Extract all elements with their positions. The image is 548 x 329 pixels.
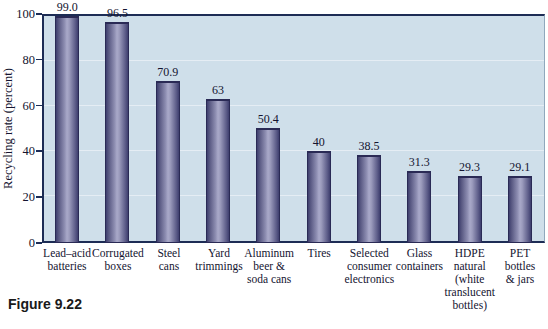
bar-1: [105, 22, 129, 243]
y-tick-mark-80: [36, 59, 42, 61]
y-tick-label-60: 60: [9, 99, 35, 113]
y-axis-title-text: Recycling rate (percent): [1, 68, 16, 189]
category-label-3: Yard trimmings: [194, 247, 244, 312]
bar-column-2: 70.9: [143, 14, 193, 243]
y-tick-label-100: 100: [9, 7, 35, 21]
y-tick-mark-100: [36, 13, 42, 15]
bar-value-label-9: 29.1: [509, 161, 530, 174]
bar-value-label-0: 99.0: [57, 1, 78, 14]
bar-3: [206, 99, 230, 243]
y-tick-label-0: 0: [9, 236, 35, 250]
bar-value-label-4: 50.4: [258, 113, 279, 126]
y-tick-mark-0: [36, 242, 42, 244]
bar-column-5: 40: [293, 14, 343, 243]
category-label-8: HDPE natural (white translucent bottles): [445, 247, 495, 312]
bar-9: [508, 176, 532, 243]
bar-value-label-2: 70.9: [157, 66, 178, 79]
y-tick-label-80: 80: [9, 53, 35, 67]
y-axis-title: Recycling rate (percent): [0, 14, 16, 243]
bar-value-label-3: 63: [212, 84, 224, 97]
y-tick-mark-40: [36, 150, 42, 152]
bar-2: [156, 81, 180, 243]
category-label-1: Corrugated boxes: [92, 247, 144, 312]
category-label-7: Glass containers: [394, 247, 444, 312]
bar-value-label-5: 40: [313, 136, 325, 149]
y-tick-label-20: 20: [9, 190, 35, 204]
bar-5: [307, 151, 331, 243]
figure-caption: Figure 9.22: [8, 296, 82, 312]
bar-value-label-1: 96.5: [107, 7, 128, 20]
bar-7: [407, 171, 431, 243]
y-tick-mark-20: [36, 196, 42, 198]
category-label-5: Tires: [294, 247, 344, 312]
bars-row: 99.096.570.96350.44038.531.329.329.1: [42, 14, 545, 243]
bar-column-8: 29.3: [444, 14, 494, 243]
bar-column-0: 99.0: [42, 14, 92, 243]
bar-value-label-7: 31.3: [409, 156, 430, 169]
y-tick-label-40: 40: [9, 144, 35, 158]
bar-0: [55, 16, 79, 243]
category-label-9: PET bottles & jars: [495, 247, 545, 312]
category-labels-row: Lead–acid batteriesCorrugated boxesSteel…: [42, 247, 545, 312]
bar-column-7: 31.3: [394, 14, 444, 243]
bar-column-1: 96.5: [92, 14, 142, 243]
bar-column-4: 50.4: [243, 14, 293, 243]
bar-value-label-6: 38.5: [358, 140, 379, 153]
category-label-2: Steel cans: [144, 247, 194, 312]
bar-column-3: 63: [193, 14, 243, 243]
bar-column-9: 29.1: [495, 14, 545, 243]
category-label-6: Selected consumer electronics: [344, 247, 394, 312]
y-tick-mark-60: [36, 105, 42, 107]
bar-8: [458, 176, 482, 243]
bar-value-label-8: 29.3: [459, 161, 480, 174]
bar-4: [256, 128, 280, 243]
bar-column-6: 38.5: [344, 14, 394, 243]
recycling-rate-bar-chart: Recycling rate (percent) 99.096.570.9635…: [0, 0, 548, 329]
category-label-4: Aluminum beer & soda cans: [244, 247, 294, 312]
bar-6: [357, 155, 381, 243]
